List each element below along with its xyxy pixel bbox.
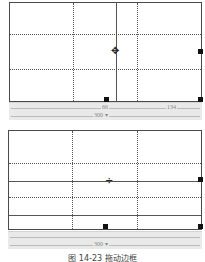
row-guide [9, 197, 201, 198]
row-guide [9, 163, 201, 164]
ruler-tick: ᐧ [169, 235, 170, 240]
ruler-tick: ᐧ [136, 106, 137, 111]
row-guide [10, 34, 201, 35]
table-width-dropdown[interactable]: 300 ▾ [93, 241, 109, 248]
ruler-tick: ᐧ [39, 235, 40, 240]
resize-handle-bottom[interactable] [103, 224, 108, 229]
resize-handle-corner[interactable] [198, 224, 203, 229]
column-guide [73, 3, 74, 101]
column-width-label: 134 [166, 104, 177, 111]
column-width-ruler: ᐧ ᐧ 66 ᐧ 134 300 ▾ [9, 102, 202, 120]
table-top [9, 2, 202, 102]
ruler-tick: ᐧ [72, 106, 73, 111]
ruler-tick: ᐧ [71, 235, 72, 240]
row-border-line [9, 215, 201, 216]
ruler-tick: ᐧ [40, 106, 41, 111]
column-guide [137, 3, 138, 101]
figure-caption: 图 14-23 拖动边框 [0, 252, 205, 262]
resize-vertical-cursor-icon: ÷ [105, 176, 113, 186]
column-width-label: 66 [101, 104, 109, 111]
table-width-dropdown[interactable]: 300 ▾ [93, 112, 109, 119]
row-guide [10, 69, 201, 70]
resize-handle-right[interactable] [198, 177, 203, 182]
ruler-tick: ᐧ [104, 235, 105, 240]
resize-handle-right[interactable] [198, 49, 203, 54]
resize-horizontal-cursor-icon: ✥ [111, 46, 119, 56]
column-width-ruler: ᐧ ᐧ ᐧ ᐧ ᐧ 300 ▾ [8, 231, 202, 249]
ruler-tick: ᐧ [136, 235, 137, 240]
